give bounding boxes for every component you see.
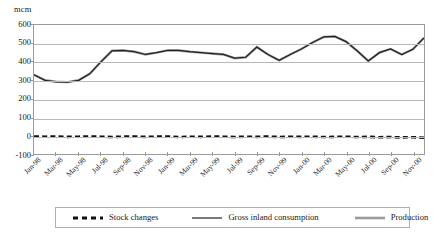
x-axis-tick-label: Sep-99: [246, 156, 267, 177]
x-axis-tick-label: Nov-99: [267, 156, 289, 178]
x-axis-tick-label: Mar-00: [312, 156, 334, 178]
gridline: [34, 62, 424, 63]
x-axis-tick-label: Jul-98: [91, 156, 110, 175]
y-axis-unit-label: mcm: [14, 4, 32, 14]
x-axis-tick-mark: [235, 152, 236, 156]
x-axis-tick-label: Jan-99: [157, 156, 177, 176]
x-axis-tick-label: Jan-00: [291, 156, 311, 176]
x-axis-tick-mark: [55, 152, 56, 156]
y-axis-tick-label: -100: [3, 151, 31, 160]
x-axis-tick-label: Jul-00: [360, 156, 379, 175]
gridline: [34, 100, 424, 101]
x-axis-tick-mark: [78, 152, 79, 156]
x-axis-tick-label: Sep-00: [380, 156, 401, 177]
legend-swatch-solid-thick: [355, 214, 385, 222]
x-axis-tick-mark: [414, 152, 415, 156]
x-axis-tick-mark: [123, 152, 124, 156]
gridline: [34, 119, 424, 120]
x-axis-tick-label: Mar-98: [43, 156, 65, 178]
legend-item[interactable]: Stock changes: [73, 213, 158, 222]
x-axis: Jan-98Mar-98May-98Jul-98Sep-98Nov-98Jan-…: [33, 156, 425, 200]
plot-area: [33, 24, 425, 155]
x-axis-tick-mark: [212, 152, 213, 156]
x-axis-tick-mark: [347, 152, 348, 156]
x-axis-tick-mark: [100, 152, 101, 156]
y-axis-tick-label: 100: [3, 113, 31, 122]
x-axis-tick-mark: [324, 152, 325, 156]
gridline: [34, 44, 424, 45]
x-axis-tick-mark: [167, 152, 168, 156]
x-axis-tick-label: May-00: [334, 156, 357, 179]
x-axis-tick-mark: [279, 152, 280, 156]
x-axis-tick-mark: [369, 152, 370, 156]
y-axis-tick-label: 300: [3, 76, 31, 85]
line-chart: mcm 6005004003002001000-100 Jan-98Mar-98…: [0, 0, 433, 234]
x-axis-tick-mark: [33, 152, 34, 156]
y-axis-tick-label: 200: [3, 94, 31, 103]
x-axis-tick-mark: [145, 152, 146, 156]
x-axis-tick-mark: [257, 152, 258, 156]
legend-label: Production: [391, 213, 429, 222]
x-axis-tick-mark: [391, 152, 392, 156]
y-axis-tick-label: 400: [3, 57, 31, 66]
plot-inner: [34, 25, 424, 154]
x-axis-tick-label: May-98: [65, 156, 88, 179]
y-axis-tick-label: 600: [3, 20, 31, 29]
gridline: [34, 81, 424, 82]
gridline: [34, 137, 424, 138]
x-axis-tick-label: Jul-99: [225, 156, 244, 175]
legend-label: Gross inland consumption: [228, 213, 318, 222]
chart-legend: Stock changesGross inland consumptionPro…: [55, 207, 410, 228]
x-axis-tick-mark: [190, 152, 191, 156]
y-axis-tick-label: 0: [3, 132, 31, 141]
x-axis-tick-mark: [302, 152, 303, 156]
legend-swatch-dashed: [73, 214, 103, 222]
y-axis: 6005004003002001000-100: [0, 24, 31, 155]
x-axis-tick-label: Nov-00: [401, 156, 423, 178]
y-axis-tick-label: 500: [3, 38, 31, 47]
x-axis-tick-label: Sep-98: [111, 156, 132, 177]
legend-item[interactable]: Production: [355, 213, 429, 222]
x-axis-tick-label: Mar-99: [178, 156, 200, 178]
legend-label: Stock changes: [109, 213, 158, 222]
x-axis-tick-label: Nov-98: [133, 156, 155, 178]
legend-swatch-solid-thin: [192, 214, 222, 222]
legend-item[interactable]: Gross inland consumption: [192, 213, 318, 222]
x-axis-tick-label: May-99: [199, 156, 222, 179]
